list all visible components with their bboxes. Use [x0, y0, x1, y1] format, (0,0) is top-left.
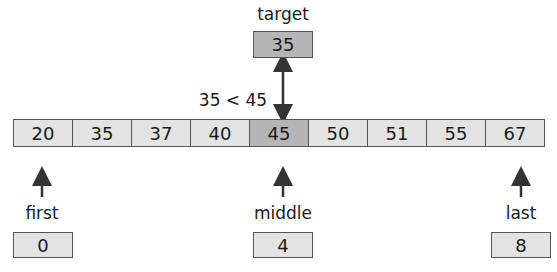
- array-cell: 50: [309, 120, 368, 146]
- last-value-box: 8: [491, 232, 551, 258]
- array-cell: 35: [73, 120, 132, 146]
- last-label: last: [481, 203, 557, 223]
- sorted-array: 203537404550515567: [13, 119, 545, 147]
- array-cell-middle: 45: [250, 120, 309, 146]
- target-value-box: 35: [253, 31, 313, 58]
- comparison-label: 35 < 45: [188, 90, 278, 110]
- first-value-box: 0: [13, 232, 73, 258]
- first-label: first: [2, 203, 82, 223]
- array-cell: 67: [486, 120, 544, 146]
- array-cell: 37: [132, 120, 191, 146]
- array-cell: 20: [14, 120, 73, 146]
- array-cell: 51: [368, 120, 427, 146]
- middle-label: middle: [243, 203, 323, 223]
- target-label: target: [243, 4, 323, 24]
- array-cell: 55: [427, 120, 486, 146]
- middle-value-box: 4: [253, 232, 313, 258]
- array-cell: 40: [191, 120, 250, 146]
